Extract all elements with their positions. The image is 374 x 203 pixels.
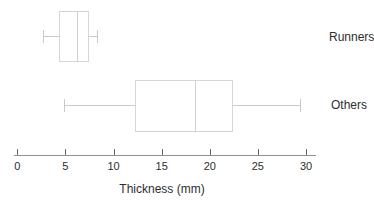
x-axis-title: Thickness (mm) [102,182,222,196]
runners-cap-min [43,30,44,43]
x-tick-label: 30 [291,160,321,172]
x-tick-label: 0 [2,160,32,172]
x-axis-line [14,155,316,156]
others-whisker-left [64,105,134,106]
others-whisker-right [233,105,300,106]
others-cap-max [300,99,301,112]
category-label-others: Others [331,99,367,112]
x-tick-label: 5 [50,160,80,172]
runners-box [59,11,89,62]
plot-area: 051015202530 [0,0,374,203]
x-tick-label: 10 [99,160,129,172]
category-label-runners: Runners [329,31,374,44]
runners-whisker-left [43,36,58,37]
runners-median-line [77,11,78,62]
others-box [135,80,233,132]
x-tick-label: 15 [147,160,177,172]
runners-cap-max [97,30,98,43]
x-tick-label: 25 [243,160,273,172]
others-median-line [195,80,196,132]
boxplot-figure: 051015202530 Runners Others Thickness (m… [0,0,374,203]
runners-whisker-right [89,36,98,37]
others-cap-min [64,99,65,112]
x-tick-label: 20 [195,160,225,172]
